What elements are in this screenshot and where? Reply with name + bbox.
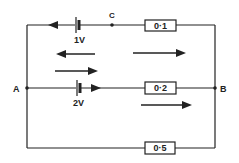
battery-2v-label: 2V <box>73 98 84 108</box>
resistor-0-2-label: 0·2 <box>154 83 167 93</box>
resistor-0-1-label: 0·1 <box>154 21 167 31</box>
node-a-label: A <box>13 84 20 94</box>
current-arrow-right-mid-icon <box>55 67 98 75</box>
current-arrow-left-icon <box>56 50 95 58</box>
battery-2v-icon <box>77 80 80 96</box>
node-c-label: C <box>109 11 115 20</box>
node-a <box>25 86 29 90</box>
arrowhead-left-icon <box>48 21 58 29</box>
arrowhead-right-icon <box>91 84 101 92</box>
circuit-diagram: 1V C 0·1 A 2V 0·2 B 0·5 <box>0 0 239 163</box>
battery-1v-label: 1V <box>74 35 85 45</box>
current-arrow-right-top-icon <box>133 49 186 57</box>
resistor-0-5-label: 0·5 <box>153 143 166 153</box>
node-b <box>213 86 217 90</box>
current-arrow-right-bottom-icon <box>141 101 192 109</box>
node-c <box>110 23 114 27</box>
node-b-label: B <box>220 84 227 94</box>
battery-1v-icon <box>76 17 79 33</box>
